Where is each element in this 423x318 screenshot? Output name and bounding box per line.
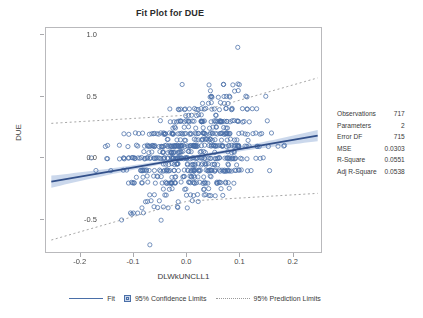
legend: Fit 95% Confidence Limits 95% Prediction…: [45, 295, 345, 302]
x-tick-mark: [80, 253, 81, 257]
page-title: Fit Plot for DUE: [0, 8, 340, 18]
stats-value: 715: [385, 131, 405, 143]
stats-row: Adj R-Square0.0538: [337, 166, 405, 178]
x-tick-label: -0.1: [113, 257, 153, 266]
stats-value: 717: [385, 108, 405, 120]
stats-value: 0.0303: [385, 143, 405, 155]
stats-label: MSE: [337, 143, 385, 155]
y-tick-label: -0.5: [57, 214, 97, 223]
stats-label: Parameters: [337, 120, 385, 132]
y-tick-label: 1.0: [57, 30, 97, 39]
legend-item-confidence: 95% Confidence Limits: [124, 295, 207, 302]
statistics-table: Observations717Parameters2Error DF715MSE…: [337, 108, 405, 177]
stats-label: Observations: [337, 108, 385, 120]
stats-label: R-Square: [337, 154, 385, 166]
x-tick-mark: [186, 253, 187, 257]
fit-line-swatch-icon: [69, 298, 103, 299]
stats-label: Error DF: [337, 131, 385, 143]
stats-row: MSE0.0303: [337, 143, 405, 155]
confidence-band-swatch-icon: [124, 295, 131, 302]
prediction-line-swatch-icon: [216, 298, 250, 299]
x-tick-label: -0.2: [60, 257, 100, 266]
x-axis-label: DLWkUNCLL1: [45, 272, 322, 281]
y-tick-mark: [40, 34, 44, 35]
x-tick-mark: [133, 253, 134, 257]
x-tick-mark: [239, 253, 240, 257]
legend-item-prediction: 95% Prediction Limits: [216, 295, 321, 302]
y-tick-label: 0.0: [57, 153, 97, 162]
y-tick-mark: [40, 96, 44, 97]
x-tick-mark: [293, 253, 294, 257]
stats-row: Observations717: [337, 108, 405, 120]
stats-row: Parameters2: [337, 120, 405, 132]
y-tick-mark: [40, 157, 44, 158]
fit-plot-figure: Fit Plot for DUE DUE DLWkUNCLL1 Observat…: [0, 0, 423, 318]
x-tick-label: 0.0: [166, 257, 206, 266]
legend-label-confidence: 95% Confidence Limits: [135, 295, 207, 302]
stats-row: R-Square0.0551: [337, 154, 405, 166]
y-tick-label: 0.5: [57, 91, 97, 100]
legend-label-prediction: 95% Prediction Limits: [254, 295, 321, 302]
x-tick-label: 0.2: [273, 257, 313, 266]
legend-item-fit: Fit: [69, 295, 115, 302]
stats-label: Adj R-Square: [337, 166, 385, 178]
y-tick-mark: [40, 219, 44, 220]
y-axis-label: DUE: [14, 103, 23, 163]
stats-value: 0.0551: [385, 154, 405, 166]
stats-row: Error DF715: [337, 131, 405, 143]
legend-label-fit: Fit: [107, 295, 115, 302]
x-tick-label: 0.1: [219, 257, 259, 266]
stats-value: 0.0538: [385, 166, 405, 178]
stats-value: 2: [385, 120, 405, 132]
